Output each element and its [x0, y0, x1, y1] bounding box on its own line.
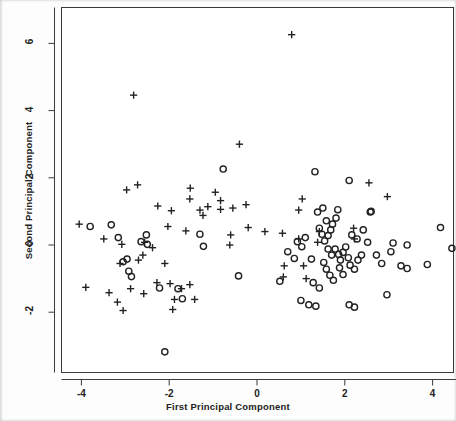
y-tick-label: 6: [23, 30, 34, 54]
y-axis-ticks: [49, 43, 55, 312]
plot-frame-box: [62, 8, 454, 373]
plot-canvas: [0, 0, 456, 421]
scatter-plot-figure: -4-2024 -20246 First Principal Component…: [0, 0, 456, 421]
y-tick-label: -2: [23, 299, 34, 323]
x-tick-label: 4: [413, 388, 453, 399]
x-tick-label: 2: [325, 388, 365, 399]
y-axis-title: Second Principal Component: [23, 111, 34, 271]
x-tick-label: 0: [237, 388, 277, 399]
x-axis-title: First Principal Component: [0, 401, 456, 412]
x-axis-ticks: [81, 380, 432, 386]
x-tick-label: -2: [149, 388, 189, 399]
x-tick-label: -4: [61, 388, 101, 399]
